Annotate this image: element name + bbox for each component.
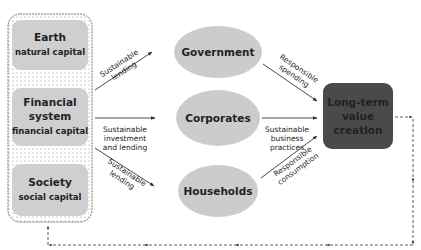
outcome-line1: Long-term <box>327 96 389 108</box>
actor-government: Government <box>174 26 262 78</box>
capital-financial-title-line1: Financial <box>23 96 76 108</box>
capital-society-title: Society <box>28 176 72 188</box>
capital-earth-title: Earth <box>34 31 66 43</box>
capital-earth-box <box>12 20 88 70</box>
svg-text:investment: investment <box>104 134 146 143</box>
sustainable-finance-diagram: Earth natural capital Financial system f… <box>0 0 421 250</box>
capital-earth: Earth natural capital <box>12 20 88 70</box>
svg-text:business: business <box>271 134 304 143</box>
svg-text:Sustainable: Sustainable <box>103 125 147 134</box>
capitals-panel: Earth natural capital Financial system f… <box>8 14 92 222</box>
label-sustainable-investment-corporates: Sustainable investment and lending <box>103 125 148 152</box>
outcome-line2: value <box>342 110 374 122</box>
actor-corporates-label: Corporates <box>185 112 250 124</box>
actor-households-label: Households <box>184 185 253 197</box>
label-responsible-spending: Responsible spending <box>273 52 321 92</box>
actor-government-label: Government <box>181 46 254 58</box>
outcome-line3: creation <box>334 124 383 136</box>
outcome-long-term-value: Long-term value creation <box>323 83 393 149</box>
capital-society-subtitle: social capital <box>19 192 82 202</box>
capital-financial-system: Financial system financial capital <box>12 88 88 146</box>
capital-financial-subtitle: financial capital <box>12 126 88 136</box>
capital-financial-title-line2: system <box>29 110 71 122</box>
label-sustainable-lending-government: Sustainable lending <box>98 47 145 86</box>
svg-text:and lending: and lending <box>103 143 148 152</box>
actor-corporates: Corporates <box>176 90 260 146</box>
label-sustainable-lending-households: Sustainable lending <box>101 157 148 196</box>
capital-earth-subtitle: natural capital <box>15 47 85 57</box>
svg-text:Sustainable: Sustainable <box>265 125 309 134</box>
capital-society: Society social capital <box>12 164 88 216</box>
capital-society-box <box>12 164 88 216</box>
actor-households: Households <box>178 165 258 217</box>
